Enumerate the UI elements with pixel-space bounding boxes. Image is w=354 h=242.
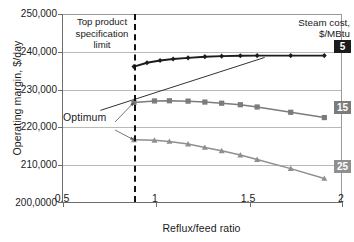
spec-limit-note-line3: limit	[66, 39, 138, 51]
legend-badge-5: 5	[334, 40, 351, 53]
x-tick-label: 2	[326, 192, 354, 204]
y-axis-title: Operating margin, $/day	[11, 18, 23, 178]
optimum-leader	[115, 102, 134, 122]
legend-title-line2: $/MBtu	[240, 28, 350, 39]
chart-figure: Operating margin, $/day Reflux/feed rati…	[0, 0, 354, 242]
optimum-label: Optimum	[63, 111, 106, 123]
spec-limit-note-line1: Top product	[66, 16, 138, 28]
y-tick-label: 230,000	[0, 84, 57, 95]
x-tick-label: 1	[140, 192, 170, 204]
legend-title: Steam cost, $/MBtu	[240, 17, 350, 40]
y-tick-label: 250,000	[0, 8, 57, 19]
legend-title-line1: Steam cost,	[240, 17, 350, 28]
legend-badge-15: 15	[334, 101, 351, 114]
x-tick-label: 0.5	[47, 192, 77, 204]
legend-badge-25: 25	[334, 160, 351, 173]
y-tick-label: 220,000	[0, 121, 57, 132]
y-tick-label: 240,000	[0, 46, 57, 57]
x-axis-title: Reflux/feed ratio	[60, 222, 343, 234]
x-tick-label: 1.5	[233, 192, 263, 204]
spec-limit-note: Top product specification limit	[66, 16, 138, 51]
y-tick-label: 210,000	[0, 159, 57, 170]
spec-limit-note-line2: specification	[66, 28, 138, 40]
